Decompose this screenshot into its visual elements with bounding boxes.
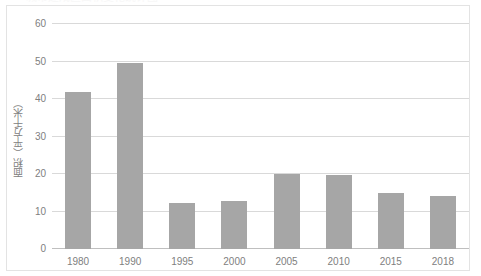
bar [430,196,456,249]
y-axis-label: 面积（平方千米） [11,98,26,178]
bar [117,63,143,249]
x-axis-tick-label: 2010 [328,256,350,267]
bar-slot: 2015 [365,24,417,249]
x-axis-tick-label: 2005 [275,256,297,267]
y-axis-tick-label: 20 [35,168,46,179]
bar-series: 19801990199520002005201020152018 [52,24,469,249]
y-axis-tick-label: 0 [40,243,46,254]
x-axis-tick-label: 1990 [119,256,141,267]
x-axis-tick-label: 1995 [171,256,193,267]
bar-slot: 1980 [52,24,104,249]
y-axis-tick-label: 10 [35,205,46,216]
bar-slot: 1995 [156,24,208,249]
bar-slot: 2010 [313,24,365,249]
y-axis-tick-label: 40 [35,93,46,104]
y-axis-label-text: 面积（平方千米） [11,98,26,178]
bar [169,203,195,249]
bar-slot: 2000 [208,24,260,249]
bar-slot: 2018 [417,24,469,249]
chart-frame: 面积（平方千米） 0102030405060 19801990199520002… [6,5,470,271]
bar-slot: 1990 [104,24,156,249]
bar-slot: 2005 [261,24,313,249]
bar [326,175,352,249]
y-axis-tick-label: 60 [35,18,46,29]
bar [378,193,404,249]
x-axis-tick-label: 2000 [223,256,245,267]
y-axis-tick-label: 50 [35,55,46,66]
chart-screenshot: 城市建成区面积变化统计图 面积（平方千米） 0102030405060 1980… [0,0,481,276]
plot-area: 0102030405060 19801990199520002005201020… [52,24,469,249]
y-axis-tick-label: 30 [35,130,46,141]
bar [274,174,300,249]
x-axis-tick-label: 2015 [380,256,402,267]
bar [221,201,247,249]
x-axis-tick-label: 1980 [67,256,89,267]
chart-title-cropped: 城市建成区面积变化统计图 [26,0,226,2]
x-axis-tick-label: 2018 [432,256,454,267]
bar [65,92,91,249]
